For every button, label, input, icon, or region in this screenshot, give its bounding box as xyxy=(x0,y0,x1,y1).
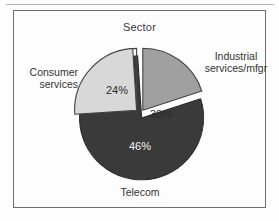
slice-label-telecom: Telecom xyxy=(84,186,196,198)
pie-slice-consumer-services[interactable] xyxy=(75,48,137,114)
chart-title: Sector xyxy=(0,21,279,33)
slice-value-telecom: 46% xyxy=(129,140,151,152)
slice-label-industrial-services-mfgr: Industrialservices/mfgr xyxy=(196,50,276,74)
slice-label-consumer-services: Consumerservices xyxy=(6,66,78,90)
top-rule-divider xyxy=(6,4,274,5)
pie-svg: 30% 46% 24% xyxy=(70,44,210,184)
pie-graphic: 30% 46% 24% xyxy=(70,44,210,184)
pie-chart-figure: Sector 30% 46% 24% Industrialservices/mf… xyxy=(0,0,279,221)
slice-value-industrial-services-mfgr: 30% xyxy=(150,108,172,120)
slice-value-consumer-services: 24% xyxy=(106,84,128,96)
